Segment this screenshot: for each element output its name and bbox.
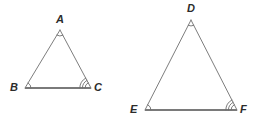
side-ac: [60, 30, 91, 88]
triangle-abc: [25, 30, 91, 88]
vertex-label-c: C: [94, 82, 102, 93]
vertex-label-b: B: [10, 82, 18, 93]
angle-arc-d-1: [188, 25, 193, 26]
geometry-figure: A B C D E F: [0, 0, 267, 123]
angle-arc-a-1: [57, 35, 63, 36]
vertex-label-d: D: [187, 3, 195, 14]
vertex-label-a: A: [56, 14, 64, 25]
side-ba: [25, 30, 60, 88]
vertex-label-e: E: [130, 104, 137, 115]
side-ed: [145, 20, 191, 110]
triangle-def: [145, 20, 237, 110]
side-df: [191, 20, 237, 110]
vertex-label-f: F: [240, 104, 247, 115]
